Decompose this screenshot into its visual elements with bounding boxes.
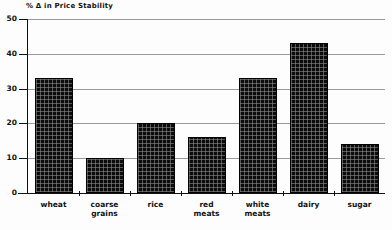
y-axis-labels: 01020304050 [0, 0, 17, 230]
x-tick [232, 191, 233, 196]
x-tick-label: white meats [232, 200, 283, 218]
bar [239, 78, 277, 193]
y-tick-40 [19, 54, 28, 55]
bars-layer [28, 19, 385, 193]
y-tick-50 [19, 19, 28, 20]
bar [86, 158, 124, 193]
y-tick-label-30: 30 [1, 85, 17, 93]
y-tick-label-0: 0 [1, 189, 17, 197]
bar-chart: % Δ in Price Stability 01020304050 wheat… [0, 0, 392, 230]
x-axis-line [18, 193, 385, 194]
y-tick-10 [19, 158, 28, 159]
y-tick-0 [19, 193, 28, 194]
bar [188, 137, 226, 193]
y-tick-label-20: 20 [1, 119, 17, 127]
x-tick-label: wheat [28, 200, 79, 209]
chart-title: % Δ in Price Stability [26, 2, 113, 10]
x-tick [79, 191, 80, 196]
x-tick [334, 191, 335, 196]
x-tick-label: coarse grains [79, 200, 130, 218]
bar [341, 144, 379, 193]
x-tick [130, 191, 131, 196]
bar [290, 43, 328, 193]
x-tick-label: rice [130, 200, 181, 209]
x-tick [181, 191, 182, 196]
y-tick-label-50: 50 [1, 15, 17, 23]
y-tick-label-10: 10 [1, 154, 17, 162]
x-tick-label: sugar [334, 200, 385, 209]
bar [137, 123, 175, 193]
x-tick-label: red meats [181, 200, 232, 218]
y-tick-20 [19, 123, 28, 124]
y-tick-30 [19, 89, 28, 90]
x-tick [283, 191, 284, 196]
bar [35, 78, 73, 193]
y-tick-label-40: 40 [1, 50, 17, 58]
x-tick-label: dairy [283, 200, 334, 209]
